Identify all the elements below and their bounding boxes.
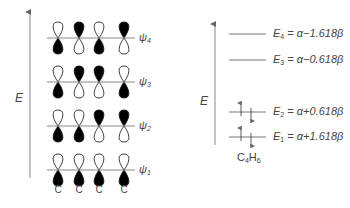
right-energy-axis-label: E xyxy=(200,95,208,107)
p-orbital-upper-lobe xyxy=(53,22,63,38)
molecule-label: C4H6 xyxy=(237,152,261,164)
p-orbital-lower-lobe xyxy=(53,38,63,54)
p-orbital-upper-lobe xyxy=(94,22,104,38)
p-orbital-upper-lobe xyxy=(119,22,129,38)
p-orbital-upper-lobe xyxy=(74,66,84,82)
p-orbital-upper-lobe xyxy=(53,154,63,170)
energy-level-label-E2: E2 = α+0.618β xyxy=(273,106,343,118)
p-orbital-upper-lobe xyxy=(94,66,104,82)
p-orbital-upper-lobe xyxy=(74,110,84,126)
p-orbital-upper-lobe xyxy=(119,154,129,170)
p-orbital-upper-lobe xyxy=(119,110,129,126)
p-orbital-lower-lobe xyxy=(94,126,104,142)
orbital-label-psi2: ψ2 xyxy=(139,120,151,132)
orbital-label-psi4: ψ4 xyxy=(139,32,151,44)
p-orbital-lower-lobe xyxy=(74,82,84,98)
p-orbital-upper-lobe xyxy=(119,66,129,82)
energy-level-label-E1: E1 = α+1.618β xyxy=(273,131,343,143)
p-orbital-upper-lobe xyxy=(94,154,104,170)
atom-label-carbon: C xyxy=(55,185,62,195)
orbital-label-psi1: ψ1 xyxy=(139,164,151,176)
p-orbital-lower-lobe xyxy=(74,38,84,54)
p-orbital-lower-lobe xyxy=(119,38,129,54)
p-orbital-upper-lobe xyxy=(94,110,104,126)
orbital-label-psi3: ψ3 xyxy=(139,76,151,88)
p-orbital-lower-lobe xyxy=(119,82,129,98)
p-orbital-lower-lobe xyxy=(119,126,129,142)
p-orbital-upper-lobe xyxy=(53,66,63,82)
atom-label-carbon: C xyxy=(96,185,103,195)
huckel-butadiene-diagram: E E ψ4ψ3ψ2ψ1 CCCC E4 = α−1.618βE3 = α−0.… xyxy=(0,0,350,208)
energy-level-label-E3: E3 = α−0.618β xyxy=(273,54,343,66)
p-orbital-lower-lobe xyxy=(94,82,104,98)
atom-label-carbon: C xyxy=(76,185,83,195)
p-orbital-upper-lobe xyxy=(74,22,84,38)
left-energy-axis-label: E xyxy=(15,92,23,104)
p-orbital-upper-lobe xyxy=(53,110,63,126)
p-orbital-lower-lobe xyxy=(74,126,84,142)
p-orbital-upper-lobe xyxy=(74,154,84,170)
p-orbital-lower-lobe xyxy=(94,38,104,54)
p-orbital-lower-lobe xyxy=(53,82,63,98)
atom-label-carbon: C xyxy=(121,185,128,195)
energy-level-label-E4: E4 = α−1.618β xyxy=(273,28,343,40)
p-orbital-lower-lobe xyxy=(53,126,63,142)
